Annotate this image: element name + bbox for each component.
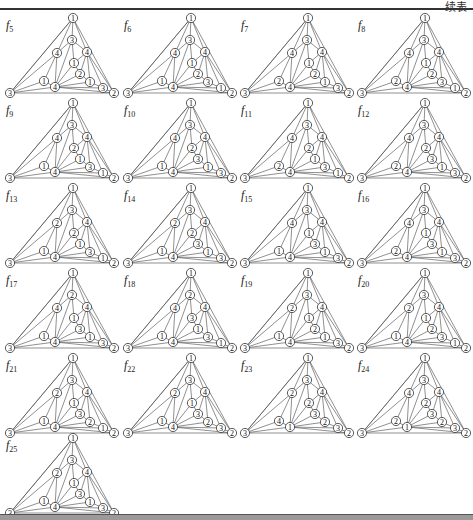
svg-text:3: 3 [101, 339, 105, 348]
svg-text:2: 2 [173, 389, 177, 398]
panel-label: f10 [124, 103, 135, 119]
graph-node-R: 4 [82, 387, 91, 397]
graph-node-R: 4 [434, 302, 443, 312]
graph-node-P2: 1 [216, 338, 225, 348]
svg-text:4: 4 [203, 388, 207, 397]
svg-text:4: 4 [171, 338, 175, 347]
graph-node-H: 4 [50, 422, 59, 432]
graph-node-P1: 1 [203, 247, 212, 257]
graph-node-LL: 1 [157, 246, 166, 256]
svg-text:4: 4 [85, 468, 89, 477]
svg-text:3: 3 [70, 456, 74, 465]
graph-drawing: 132344213114 [0, 97, 118, 182]
graph-node-P1: 3 [203, 77, 212, 87]
graph-panel-f20: 132324123114f20 [352, 267, 470, 352]
graph-node-C1: 1 [69, 478, 78, 488]
svg-text:3: 3 [422, 121, 426, 130]
svg-text:1: 1 [206, 248, 210, 257]
svg-text:4: 4 [53, 338, 57, 347]
svg-text:3: 3 [188, 206, 192, 215]
graph-node-LL: 1 [274, 246, 283, 256]
svg-text:3: 3 [188, 121, 192, 130]
svg-text:2: 2 [394, 162, 398, 171]
svg-text:3: 3 [305, 121, 309, 130]
graph-node-P2: 3 [450, 423, 459, 433]
svg-text:2: 2 [196, 70, 200, 79]
graph-node-A: 3 [302, 205, 311, 215]
graph-node-H: 4 [285, 167, 294, 177]
svg-text:2: 2 [88, 418, 92, 427]
svg-text:3: 3 [422, 36, 426, 45]
svg-text:4: 4 [171, 168, 175, 177]
svg-text:3: 3 [196, 240, 200, 249]
graph-node-P1: 3 [203, 332, 212, 342]
graph-node-C1: 1 [187, 398, 196, 408]
svg-text:1: 1 [42, 162, 46, 171]
graph-node-P1: 1 [85, 497, 94, 507]
svg-text:3: 3 [336, 424, 340, 433]
graph-node-H: 4 [402, 82, 411, 92]
graph-node-top: 1 [303, 268, 312, 278]
svg-text:2: 2 [440, 418, 444, 427]
svg-text:2: 2 [173, 219, 177, 228]
graph-node-bottom_left: 3 [357, 428, 366, 438]
svg-text:4: 4 [437, 133, 441, 142]
graph-node-A: 3 [185, 35, 194, 45]
graph-node-C2: 3 [75, 324, 84, 334]
graph-node-H: 4 [168, 337, 177, 347]
svg-text:1: 1 [42, 332, 46, 341]
panel-label: f6 [124, 18, 131, 34]
svg-text:2: 2 [430, 70, 434, 79]
graph-drawing: 132344131314 [235, 182, 353, 267]
svg-text:1: 1 [307, 229, 311, 238]
panel-label: f8 [358, 18, 365, 34]
svg-text:4: 4 [53, 168, 57, 177]
graph-node-R: 4 [434, 217, 443, 227]
graph-panel-f19: 132324121314f19 [235, 267, 353, 352]
graph-node-P2: 1 [98, 168, 107, 178]
graph-node-bottom_left: 3 [123, 428, 132, 438]
svg-text:3: 3 [190, 314, 194, 323]
svg-text:4: 4 [407, 219, 411, 228]
graph-node-P2: 3 [450, 253, 459, 263]
panel-label: f9 [6, 103, 13, 119]
svg-text:1: 1 [189, 354, 193, 363]
panel-label: f14 [124, 188, 135, 204]
graph-node-P2: 1 [450, 83, 459, 93]
graph-node-C2: 1 [310, 154, 319, 164]
graph-node-C2: 3 [310, 409, 319, 419]
graph-node-C1: 2 [69, 143, 78, 153]
svg-text:3: 3 [430, 155, 434, 164]
graph-panel-f6: 132344123114f6 [118, 12, 236, 97]
svg-text:3: 3 [422, 376, 426, 385]
graph-drawing: 132344123124 [352, 12, 470, 97]
graph-node-P1: 3 [320, 162, 329, 172]
svg-text:1: 1 [206, 163, 210, 172]
graph-node-L: 4 [404, 388, 413, 398]
svg-text:1: 1 [71, 99, 75, 108]
graph-node-R: 4 [317, 387, 326, 397]
svg-text:1: 1 [189, 14, 193, 23]
graph-node-P1: 2 [320, 417, 329, 427]
svg-text:3: 3 [305, 376, 309, 385]
graph-node-C2: 3 [75, 489, 84, 499]
graph-node-C2: 2 [75, 69, 84, 79]
graph-drawing: 132344231314 [118, 97, 236, 182]
graph-node-R: 4 [82, 217, 91, 227]
graph-node-L: 2 [170, 388, 179, 398]
panel-label: f20 [358, 273, 369, 289]
panel-label: f11 [241, 103, 252, 119]
graph-node-P1: 1 [320, 247, 329, 257]
svg-text:4: 4 [288, 253, 292, 262]
graph-drawing: 132244131314 [0, 267, 118, 352]
svg-text:2: 2 [55, 389, 59, 398]
graph-node-L: 2 [287, 303, 296, 313]
graph-node-C2: 3 [310, 239, 319, 249]
graph-node-L: 2 [52, 218, 61, 228]
svg-text:4: 4 [55, 304, 59, 313]
graph-node-A: 3 [419, 205, 428, 215]
graph-node-top: 1 [420, 13, 429, 23]
graph-node-R: 4 [434, 132, 443, 142]
svg-text:3: 3 [70, 376, 74, 385]
graph-node-C1: 2 [187, 143, 196, 153]
